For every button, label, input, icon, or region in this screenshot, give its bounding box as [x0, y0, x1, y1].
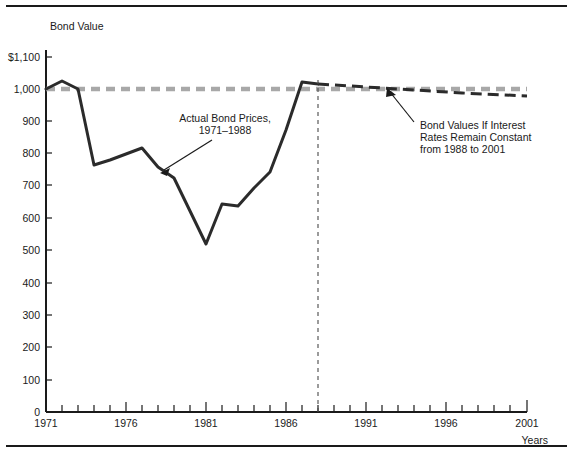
x-tick-label-1976: 1976 [114, 417, 138, 429]
annotation-forecast-values: Bond Values If Interest Rates Remain Con… [386, 88, 532, 155]
bond-value-line-chart: $1,100 1,000 900 800 700 600 500 400 300… [0, 0, 573, 452]
y-tick-label-700: 700 [22, 179, 40, 191]
x-tick-label-1971: 1971 [34, 417, 58, 429]
annotation-forecast-line-1: Bond Values If Interest [420, 119, 526, 131]
y-tick-label-900: 900 [22, 115, 40, 127]
annotation-actual-bond-prices: Actual Bond Prices, 1971–1988 [160, 112, 271, 176]
y-tick-label-1000: 1,000 [14, 83, 40, 95]
annotation-forecast-line-2: Rates Remain Constant [420, 131, 532, 143]
y-tick-label-300: 300 [22, 309, 40, 321]
annotation-forecast-line-3: from 1988 to 2001 [420, 143, 505, 155]
y-tick-label-1100: $1,100 [8, 51, 40, 63]
x-tick-label-1986: 1986 [274, 417, 298, 429]
annotation-actual-leader-line [164, 140, 212, 170]
annotation-actual-line-1: Actual Bond Prices, [179, 112, 271, 124]
y-axis-tick-labels: $1,100 1,000 900 800 700 600 500 400 300… [8, 51, 40, 418]
y-tick-label-200: 200 [22, 341, 40, 353]
y-tick-label-500: 500 [22, 244, 40, 256]
x-tick-label-1981: 1981 [194, 417, 218, 429]
x-tick-label-1991: 1991 [354, 417, 378, 429]
actual-bond-prices-line [46, 81, 318, 244]
x-tick-label-2001: 2001 [515, 417, 539, 429]
annotation-actual-line-2: 1971–1988 [199, 124, 252, 136]
y-tick-label-400: 400 [22, 277, 40, 289]
figure-container: $1,100 1,000 900 800 700 600 500 400 300… [0, 0, 573, 452]
x-axis-tick-labels: 1971 1976 1981 1986 1991 1996 2001 [34, 417, 539, 429]
y-axis-title: Bond Value [50, 20, 104, 32]
x-axis-title: Years [522, 434, 548, 446]
y-tick-label-100: 100 [22, 374, 40, 386]
x-axis-ticks [62, 400, 527, 412]
x-tick-label-1996: 1996 [434, 417, 458, 429]
annotation-forecast-leader-line [390, 92, 414, 122]
y-tick-label-600: 600 [22, 212, 40, 224]
y-tick-label-800: 800 [22, 147, 40, 159]
